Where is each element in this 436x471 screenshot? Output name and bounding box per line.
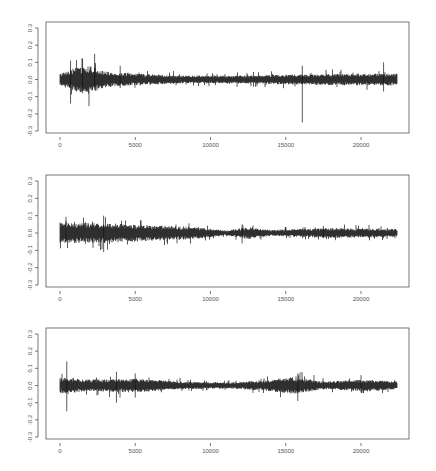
y-tick-label: -0.3 (27, 279, 33, 290)
y-tick-label: -0.1 (27, 91, 33, 102)
x-tick-label: 10000 (202, 448, 219, 454)
x-tick-label: 20000 (353, 448, 370, 454)
series-series-2 (60, 216, 397, 252)
x-tick-label: 0 (58, 142, 62, 148)
x-tick-label: 5000 (129, 142, 143, 148)
panel-2: 0.30.20.10.0-0.1-0.2-0.30500010000150002… (27, 175, 409, 302)
y-tick-label: 0.2 (27, 194, 33, 203)
series-series-3 (60, 361, 397, 411)
y-axis: 0.30.20.10.0-0.1-0.2-0.3 (27, 23, 38, 136)
signal-trace (60, 217, 397, 250)
x-tick-label: 10000 (202, 296, 219, 302)
x-tick-label: 10000 (202, 142, 219, 148)
x-tick-label: 5000 (129, 448, 143, 454)
panel-1: 0.30.20.10.0-0.1-0.2-0.30500010000150002… (27, 22, 409, 148)
x-tick-label: 0 (58, 296, 62, 302)
y-axis: 0.30.20.10.0-0.1-0.2-0.3 (27, 176, 38, 290)
y-tick-label: 0.2 (27, 346, 33, 355)
y-tick-label: -0.2 (27, 108, 33, 119)
x-axis: 05000100001500020000 (58, 137, 370, 148)
y-tick-label: -0.3 (27, 125, 33, 136)
x-tick-label: 5000 (129, 296, 143, 302)
panel-3: 0.30.20.10.0-0.1-0.2-0.30500010000150002… (27, 328, 409, 454)
y-tick-label: 0.1 (27, 211, 33, 220)
y-tick-label: -0.2 (27, 414, 33, 425)
y-tick-label: 0.0 (27, 228, 33, 237)
y-tick-label: -0.1 (27, 245, 33, 256)
x-tick-label: 20000 (353, 142, 370, 148)
y-tick-label: 0.3 (27, 23, 33, 32)
y-tick-label: 0.2 (27, 40, 33, 49)
y-tick-label: -0.1 (27, 397, 33, 408)
y-tick-label: -0.3 (27, 431, 33, 442)
figure: 0.30.20.10.0-0.1-0.2-0.30500010000150002… (0, 0, 436, 471)
x-tick-label: 20000 (353, 296, 370, 302)
x-tick-label: 0 (58, 448, 62, 454)
x-tick-label: 15000 (277, 296, 294, 302)
series-series-1 (60, 54, 397, 123)
x-axis: 05000100001500020000 (58, 443, 370, 454)
y-tick-label: 0.1 (27, 58, 33, 67)
y-axis: 0.30.20.10.0-0.1-0.2-0.3 (27, 329, 38, 442)
y-tick-label: 0.0 (27, 381, 33, 390)
y-tick-label: 0.1 (27, 364, 33, 373)
y-tick-label: 0.3 (27, 176, 33, 185)
y-tick-label: 0.3 (27, 329, 33, 338)
signal-trace (60, 58, 397, 106)
x-axis: 05000100001500020000 (58, 291, 370, 302)
x-tick-label: 15000 (277, 448, 294, 454)
y-tick-label: 0.0 (27, 75, 33, 84)
x-tick-label: 15000 (277, 142, 294, 148)
signal-trace (60, 372, 397, 397)
y-tick-label: -0.2 (27, 262, 33, 273)
